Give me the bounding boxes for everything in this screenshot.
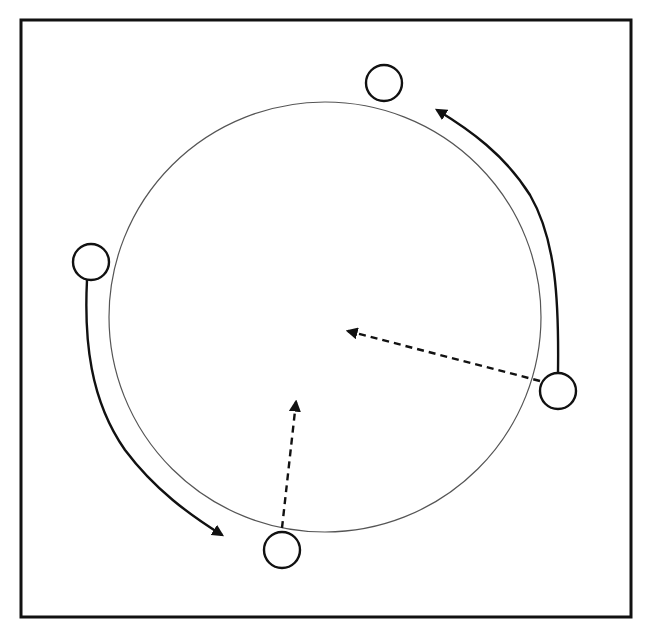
small-circle-right	[540, 373, 576, 409]
small-circle-left	[73, 244, 109, 280]
figure-frame	[21, 20, 631, 617]
small-circle-bottom	[264, 532, 300, 568]
figure-caption-clipped	[22, 622, 282, 633]
small-circle-top	[366, 65, 402, 101]
rotation-diagram	[0, 0, 646, 633]
